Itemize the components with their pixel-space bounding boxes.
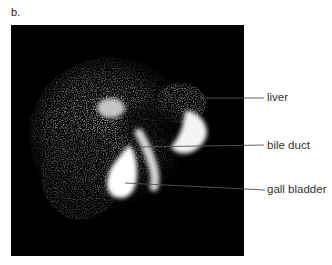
gall-bladder-leader-line: [125, 183, 265, 190]
label-gall-bladder: gall bladder: [267, 184, 326, 196]
annotation-lines: [0, 0, 332, 265]
bile-duct-leader-line: [140, 145, 264, 147]
label-bile-duct: bile duct: [267, 140, 310, 152]
label-liver: liver: [267, 92, 288, 104]
